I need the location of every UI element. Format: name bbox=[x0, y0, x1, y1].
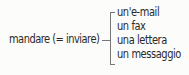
branch-item: una lettera bbox=[117, 33, 181, 47]
connector-line bbox=[102, 40, 110, 41]
branch-item: un fax bbox=[117, 19, 181, 33]
branch-bracket bbox=[110, 12, 115, 65]
root-verb: mandare (= inviare) bbox=[9, 32, 99, 46]
branch-list: un'e-mail un fax una lettera un messaggi… bbox=[117, 5, 189, 61]
branch-item: un'e-mail bbox=[117, 5, 181, 19]
branch-item: un messaggio bbox=[117, 47, 181, 61]
